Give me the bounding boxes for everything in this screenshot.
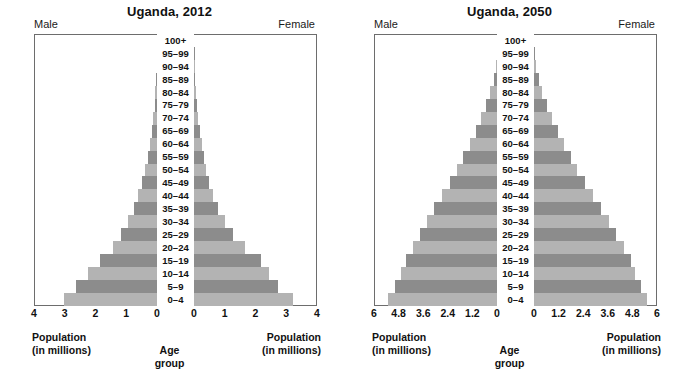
pyramid-bar bbox=[534, 86, 542, 99]
pyramid-row bbox=[374, 176, 497, 189]
age-group-label: 40–44 bbox=[157, 189, 194, 202]
population-pyramid-figure: Uganda, 2012 Male Female 0–45–910–1415–1… bbox=[0, 0, 679, 387]
pyramid-row bbox=[374, 241, 497, 254]
age-group-label: 40–44 bbox=[497, 189, 534, 202]
pyramid-row bbox=[194, 228, 317, 241]
pyramid-row bbox=[34, 267, 157, 280]
age-group-label: 80–84 bbox=[497, 86, 534, 99]
pyramid-row bbox=[374, 112, 497, 125]
pyramid-row bbox=[374, 125, 497, 138]
x-axis-tick-label: 6 bbox=[371, 307, 377, 319]
pyramid-row bbox=[374, 138, 497, 151]
pyramid-bar bbox=[194, 151, 204, 164]
pyramid-row bbox=[374, 34, 497, 47]
pyramid-bar bbox=[406, 254, 497, 267]
legend-male-left: Male bbox=[34, 18, 58, 30]
pyramid-row bbox=[194, 73, 317, 86]
pyramid-bar bbox=[194, 112, 198, 125]
pyramid-bar bbox=[194, 99, 197, 112]
pyramid-bar bbox=[194, 86, 196, 99]
age-group-label: 45–49 bbox=[157, 176, 194, 189]
x-axis-tick-label: 3 bbox=[283, 307, 289, 319]
pyramid-bar bbox=[534, 99, 547, 112]
pyramid-bar bbox=[194, 73, 195, 86]
pyramid-bar bbox=[534, 112, 552, 125]
pyramid-row bbox=[194, 125, 317, 138]
age-group-label: 5–9 bbox=[497, 280, 534, 293]
pyramid-bar bbox=[534, 138, 564, 151]
age-group-label: 60–64 bbox=[157, 138, 194, 151]
pyramid-row bbox=[34, 189, 157, 202]
pyramid-bar bbox=[134, 202, 157, 215]
pyramid-bar bbox=[194, 125, 200, 138]
x-axis-tick-label: 3.6 bbox=[416, 307, 431, 319]
pyramid-row bbox=[534, 138, 657, 151]
pyramid-row bbox=[34, 86, 157, 99]
age-group-label: 90–94 bbox=[157, 60, 194, 73]
pyramid-row bbox=[534, 280, 657, 293]
pyramid-bar bbox=[194, 176, 209, 189]
pyramid-row bbox=[374, 280, 497, 293]
x-axis-left: 43210 43210 bbox=[34, 306, 317, 328]
legend-male-right: Male bbox=[374, 18, 398, 30]
axis-caption-age-right: Age group bbox=[340, 344, 679, 370]
pyramid-bar bbox=[534, 125, 558, 138]
age-group-label: 20–24 bbox=[497, 241, 534, 254]
pyramid-bar bbox=[427, 215, 497, 228]
pyramid-row bbox=[374, 47, 497, 60]
age-group-label: 30–34 bbox=[497, 215, 534, 228]
pyramid-bar bbox=[442, 189, 497, 202]
x-axis-female-left: 43210 bbox=[194, 306, 317, 328]
pyramid-bar bbox=[194, 60, 195, 73]
pyramid-row bbox=[534, 47, 657, 60]
pyramid-row bbox=[34, 151, 157, 164]
pyramid-row bbox=[374, 202, 497, 215]
pyramid-row bbox=[34, 60, 157, 73]
x-axis-tick-label: 3.6 bbox=[600, 307, 615, 319]
pyramid-bar bbox=[88, 267, 157, 280]
x-axis-tick-label: 4 bbox=[314, 307, 320, 319]
pyramid-row bbox=[374, 215, 497, 228]
age-group-label: 25–29 bbox=[157, 228, 194, 241]
pyramid-row bbox=[34, 241, 157, 254]
pyramid-bar bbox=[64, 293, 157, 306]
pyramid-row bbox=[534, 293, 657, 306]
pyramid-bar bbox=[470, 138, 497, 151]
pyramid-row bbox=[374, 60, 497, 73]
pyramid-bar bbox=[145, 164, 157, 177]
age-group-label: 15–19 bbox=[497, 254, 534, 267]
x-axis-right: 64.83.62.41.20 64.83.62.41.20 bbox=[374, 306, 657, 328]
age-group-label: 15–19 bbox=[157, 254, 194, 267]
pyramid-row bbox=[194, 241, 317, 254]
pyramid-row bbox=[194, 86, 317, 99]
age-group-label: 35–39 bbox=[497, 202, 534, 215]
age-group-label: 70–74 bbox=[497, 112, 534, 125]
pyramid-row bbox=[534, 73, 657, 86]
age-group-axis-left: 0–45–910–1415–1920–2425–2930–3435–3940–4… bbox=[157, 34, 194, 306]
pyramid-row bbox=[534, 176, 657, 189]
pyramid-row bbox=[194, 202, 317, 215]
age-group-label: 85–89 bbox=[157, 73, 194, 86]
pyramid-row bbox=[534, 86, 657, 99]
x-axis-tick-label: 1.2 bbox=[551, 307, 566, 319]
pyramid-row bbox=[194, 215, 317, 228]
pyramid-row bbox=[374, 293, 497, 306]
age-group-label: 60–64 bbox=[497, 138, 534, 151]
pyramid-row bbox=[194, 151, 317, 164]
pyramid-row bbox=[374, 228, 497, 241]
pyramid-bar bbox=[534, 60, 536, 73]
pyramid-row bbox=[34, 47, 157, 60]
pyramid-bar bbox=[534, 241, 624, 254]
pyramid-row bbox=[194, 112, 317, 125]
age-group-label: 50–54 bbox=[497, 164, 534, 177]
pyramid-row bbox=[194, 189, 317, 202]
age-group-label: 75–79 bbox=[497, 99, 534, 112]
pyramid-bar bbox=[534, 176, 585, 189]
pyramid-bar bbox=[150, 138, 157, 151]
age-group-label: 65–69 bbox=[157, 125, 194, 138]
pyramid-row bbox=[534, 99, 657, 112]
pyramid-row bbox=[534, 254, 657, 267]
plot-area-left: 0–45–910–1415–1920–2425–2930–3435–3940–4… bbox=[34, 34, 317, 306]
pyramid-row bbox=[34, 176, 157, 189]
pyramid-bar bbox=[121, 228, 157, 241]
